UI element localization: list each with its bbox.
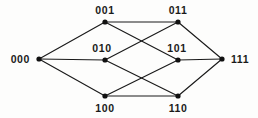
node-label-111: 111 (231, 53, 249, 65)
node-label-001: 001 (95, 4, 114, 16)
node-110 (175, 93, 180, 98)
node-label-101: 101 (167, 42, 186, 54)
node-101 (175, 57, 180, 62)
edge-000-010 (39, 59, 105, 60)
node-111 (219, 56, 224, 61)
node-010 (102, 57, 107, 62)
node-001 (102, 19, 107, 24)
node-011 (175, 19, 180, 24)
edge-110-111 (178, 59, 222, 96)
node-100 (102, 93, 107, 98)
node-label-000: 000 (11, 53, 30, 65)
node-000 (36, 56, 41, 61)
edge-101-111 (178, 59, 222, 60)
edge-000-100 (39, 59, 105, 96)
node-label-011: 011 (169, 4, 188, 16)
edges-group (39, 22, 222, 96)
lattice-diagram: 000001010100011101110111 (0, 0, 258, 118)
node-label-110: 110 (169, 102, 188, 114)
node-label-100: 100 (95, 102, 114, 114)
node-label-010: 010 (92, 42, 111, 54)
lattice-svg: 000001010100011101110111 (0, 0, 258, 118)
